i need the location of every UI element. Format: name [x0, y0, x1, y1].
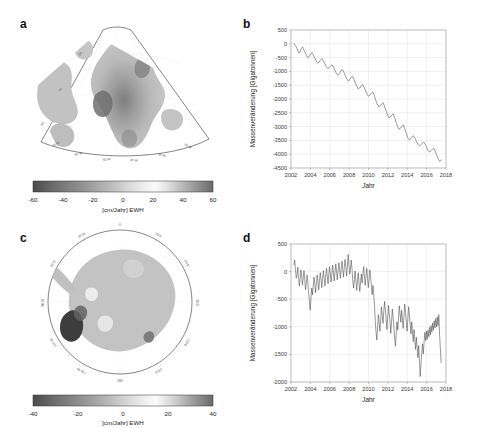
greenland-timeseries-chart: 2002200420062008201020122014201620185000… [237, 0, 477, 214]
ytick-label: 500 [278, 241, 287, 247]
cb-tick-aa-3: 20 [165, 410, 172, 417]
ytick-label: -1000 [273, 68, 287, 74]
cb-unit-antarctica: [cm/Jahr] EWH [102, 419, 144, 426]
y-axis-title: Massenveränderung [Gigatonnen] [249, 50, 257, 147]
xtick-label: 2012 [382, 172, 394, 178]
cb-tick-gl-1: -40 [59, 196, 69, 203]
xtick-label: 2008 [343, 386, 355, 392]
cb-tick-gl-5: 40 [180, 196, 187, 203]
greenland-map-svg: 80 70 60 70 W 60 W 50 W 40 W 30 W 20 W -… [0, 0, 240, 214]
ytick-label: 0 [284, 41, 287, 47]
xtick-label: 2014 [401, 172, 413, 178]
geo-label-lon-60w: 60 W [49, 258, 57, 267]
ytick-label: -1500 [273, 82, 287, 88]
xtick-label: 2010 [362, 386, 374, 392]
geo-label-lon-150w: 150 W [76, 366, 87, 375]
y-axis-title: Massenveränderung [Gigatonnen] [249, 264, 257, 361]
ytick-label: -3000 [273, 124, 287, 130]
antarctica-timeseries-chart: 2002200420062008201020122014201620185000… [237, 214, 477, 428]
panel-letter-b: b [243, 18, 250, 30]
xtick-label: 2004 [304, 172, 316, 178]
cb-tick-aa-2: 0 [121, 410, 125, 417]
cb-tick-gl-2: -20 [89, 196, 99, 203]
ellesmere-canada-layer [37, 39, 93, 147]
cb-tick-gl-6: 60 [210, 196, 217, 203]
xtick-label: 2016 [420, 386, 432, 392]
xtick-label: 2002 [285, 386, 297, 392]
xtick-label: 2012 [382, 386, 394, 392]
antarctica-ice-layer [48, 250, 175, 352]
x-axis-title: Jahr [362, 182, 375, 189]
cb-tick-gl-0: -60 [29, 196, 39, 203]
xtick-label: 2008 [343, 172, 355, 178]
iceland-layer [161, 109, 183, 130]
panel-d-antarctica-timeseries: d 20022004200620082010201220142016201850… [237, 214, 477, 428]
xtick-label: 2006 [324, 172, 336, 178]
panel-c-antarctica-map: c [0, 214, 240, 428]
ytick-label: -3500 [273, 137, 287, 143]
panel-a-greenland-map: a [0, 0, 240, 214]
svalbard-layer [146, 35, 157, 45]
panel-b-greenland-timeseries: b 20022004200620082010201220142016201850… [237, 0, 477, 214]
xtick-label: 2018 [440, 386, 452, 392]
xtick-label: 2006 [324, 386, 336, 392]
antarctica-map-svg: 0 30 E 60 E 90 E 120 E 150 E 180 150 W 1… [0, 214, 240, 428]
geo-label-lon-30w: 30 W [158, 152, 167, 158]
geo-label-lon-90e: 90 E [195, 300, 199, 308]
geo-label-lon-20w: 20 W [184, 142, 193, 150]
ytick-label: 500 [278, 27, 287, 33]
geo-label-lon-40w: 40 W [130, 158, 139, 163]
figure-root: a [0, 0, 477, 428]
chart-body: 2002200420062008201020122014201620185000… [249, 241, 452, 403]
cb-tick-aa-1: -20 [74, 410, 84, 417]
xtick-label: 2018 [440, 172, 452, 178]
ytick-label: -2500 [273, 110, 287, 116]
greenland-colorbar: -60 -40 -20 0 20 40 60 [cm/Jahr] EWH [29, 181, 217, 213]
ytick-label: -500 [276, 55, 287, 61]
xtick-label: 2016 [420, 172, 432, 178]
geo-label-lat-60: 60 [40, 121, 46, 126]
cb-tick-gl-3: 0 [121, 196, 125, 203]
ytick-label: -500 [276, 296, 287, 302]
ytick-label: -2000 [273, 96, 287, 102]
ytick-label: -4500 [273, 165, 287, 171]
data-series-0 [294, 43, 441, 161]
geo-label-lon-30e: 30 E [155, 232, 164, 239]
antarctica-colorbar-gradient [33, 395, 213, 406]
cb-tick-gl-4: 20 [150, 196, 157, 203]
xtick-label: 2004 [304, 386, 316, 392]
geo-label-lon-30w: 30 W [77, 231, 86, 239]
geo-label-lon-50w: 50 W [103, 157, 112, 162]
ytick-label: 0 [284, 269, 287, 275]
xtick-label: 2002 [285, 172, 297, 178]
greenland-ice-layer [91, 38, 165, 149]
geo-label-lon-0: 0 [119, 223, 121, 227]
greenland-colorbar-gradient [33, 181, 213, 192]
xtick-label: 2010 [362, 172, 374, 178]
chart-body: 2002200420062008201020122014201620185000… [249, 27, 452, 189]
geo-label-lon-120w: 120 W [49, 337, 58, 348]
geo-label-lon-120e: 120 E [183, 338, 191, 348]
geo-label-lon-60w: 60 W [74, 151, 83, 157]
cb-tick-aa-0: -40 [29, 410, 39, 417]
geo-label-lon-90w: 90 W [41, 298, 45, 307]
geo-label-lon-60e: 60 E [183, 260, 190, 269]
cb-unit-greenland: [cm/Jahr] EWH [102, 206, 144, 213]
panel-letter-a: a [20, 18, 27, 30]
cb-tick-aa-4: 40 [210, 410, 217, 417]
antarctica-colorbar: -40 -20 0 20 40 [cm/Jahr] EWH [29, 395, 217, 426]
xtick-label: 2014 [401, 386, 413, 392]
geo-label-lon-180: 180 [117, 379, 123, 383]
data-series-0 [294, 254, 441, 376]
panel-letter-c: c [20, 232, 27, 244]
ytick-label: -1000 [273, 324, 287, 330]
ytick-label: -2000 [273, 379, 287, 385]
geo-label-lon-150e: 150 E [153, 367, 163, 375]
ytick-label: -1500 [273, 351, 287, 357]
ytick-label: -4000 [273, 151, 287, 157]
panel-letter-d: d [243, 232, 250, 244]
x-axis-title: Jahr [362, 396, 375, 403]
